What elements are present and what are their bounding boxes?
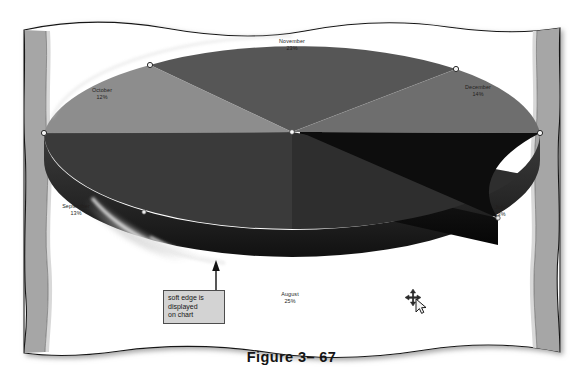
figure-caption: Figure 3– 67 — [0, 349, 583, 365]
selection-handle-november[interactable] — [453, 66, 458, 71]
data-label-october-name: October — [92, 87, 112, 93]
data-label-november-pct: 23% — [242, 45, 342, 52]
data-label-september-pct: 13% — [34, 210, 118, 217]
selection-handle-august-left[interactable] — [142, 210, 146, 214]
selection-handle-september[interactable] — [41, 130, 46, 135]
data-label-july-pct: 13% — [465, 211, 535, 218]
data-label-october: October 12% — [62, 87, 142, 101]
data-label-august: August 25% — [240, 291, 340, 305]
selection-handle-december[interactable] — [537, 130, 542, 135]
selection-handle-center[interactable] — [290, 130, 295, 135]
data-label-august-name: August — [281, 291, 299, 297]
callout-line-1: soft edge is — [168, 294, 220, 303]
data-label-november: November 23% — [242, 38, 342, 52]
data-label-september-name: September — [62, 203, 90, 209]
data-label-july-name: July — [495, 204, 505, 210]
figure-screenshot: November 23% December 14% October 12% Se… — [0, 0, 583, 382]
data-label-august-pct: 25% — [240, 298, 340, 305]
data-label-november-name: November — [279, 38, 305, 44]
data-label-december-name: December — [465, 84, 491, 90]
callout-line-3: on chart — [168, 311, 220, 320]
data-label-december: December 14% — [433, 84, 523, 98]
move-cursor — [404, 288, 430, 316]
pie-top-face[interactable] — [44, 46, 540, 229]
soft-edge-callout-box: soft edge is displayed on chart — [163, 290, 225, 324]
data-label-july: July 13% — [465, 204, 535, 218]
data-label-october-pct: 12% — [62, 94, 142, 101]
selection-handle-october[interactable] — [147, 62, 152, 67]
data-label-september: September 13% — [34, 203, 118, 217]
callout-line-2: displayed — [168, 303, 220, 312]
cursor-arrow-pointer — [416, 299, 426, 313]
data-label-december-pct: 14% — [433, 91, 523, 98]
